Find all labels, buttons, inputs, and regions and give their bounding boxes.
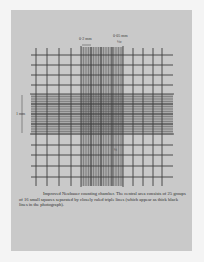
caption-title: Improved Neubauer counting chamber. (43, 191, 115, 196)
figure-caption: Improved Neubauer counting chamber. The … (19, 191, 187, 208)
label-inner-mark: ¼ (114, 148, 117, 152)
label-0-2mm: 0·2 mm (79, 37, 92, 41)
neubauer-grid (0, 0, 204, 262)
label-1mm: 1 mm (16, 112, 25, 116)
label-0-05mm: 0·05 mm (113, 34, 128, 38)
label-quarter-c: ¼c (117, 40, 122, 44)
